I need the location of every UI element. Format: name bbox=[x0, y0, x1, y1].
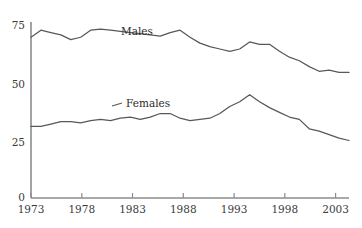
x-tick-label-2003: 2003 bbox=[322, 203, 349, 215]
line-chart: 0 25 50 75 1973 1978 1983 1988 1993 1998… bbox=[0, 0, 362, 228]
series-annotations: Males Females bbox=[121, 25, 170, 109]
x-tick-label-1998: 1998 bbox=[271, 203, 298, 215]
series-line-males bbox=[31, 29, 349, 72]
chart-canvas: 0 25 50 75 1973 1978 1983 1988 1993 1998… bbox=[0, 0, 362, 228]
x-axis-labels: 1973 1978 1983 1988 1993 1998 2003 bbox=[18, 203, 349, 215]
y-tick-label-75: 75 bbox=[12, 19, 25, 31]
series-label-males: Males bbox=[121, 25, 153, 37]
series-line-females bbox=[31, 95, 349, 141]
series-group bbox=[31, 29, 349, 140]
x-tick-label-1988: 1988 bbox=[170, 203, 197, 215]
y-tick-label-50: 50 bbox=[12, 78, 25, 90]
x-tick-label-1983: 1983 bbox=[119, 203, 146, 215]
y-tick-label-0: 0 bbox=[18, 191, 25, 203]
females-leader-line bbox=[112, 103, 122, 106]
axes bbox=[31, 22, 349, 198]
series-label-females: Females bbox=[126, 97, 170, 109]
x-tick-label-1978: 1978 bbox=[68, 203, 95, 215]
y-tick-label-25: 25 bbox=[12, 136, 25, 148]
x-tick-label-1973: 1973 bbox=[18, 203, 45, 215]
x-tick-label-1993: 1993 bbox=[221, 203, 248, 215]
y-axis-labels: 0 25 50 75 bbox=[12, 19, 25, 203]
